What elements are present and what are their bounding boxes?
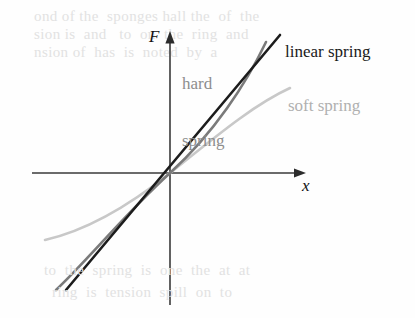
linear-spring-label: linear spring — [285, 42, 370, 61]
hard-spring-label-line-2: spring — [182, 131, 225, 150]
bleed-through-text-bottom-1: to the spring is one the at at — [44, 262, 250, 279]
curve-soft-spring — [45, 88, 290, 240]
x-axis-label: x — [302, 176, 310, 195]
curve-hard-spring — [56, 42, 266, 290]
hard-spring-label-line-1: hard — [182, 74, 225, 93]
bleed-through-text-bottom-2: ring is tension spill on to — [52, 284, 232, 301]
hard-spring-label: hard spring — [182, 36, 225, 188]
y-axis-label: F — [149, 27, 159, 46]
soft-spring-label: soft spring — [288, 96, 360, 115]
spring-force-displacement-figure: ond of the sponges hall the of the sion … — [0, 0, 415, 318]
curve-linear-spring — [66, 35, 280, 290]
